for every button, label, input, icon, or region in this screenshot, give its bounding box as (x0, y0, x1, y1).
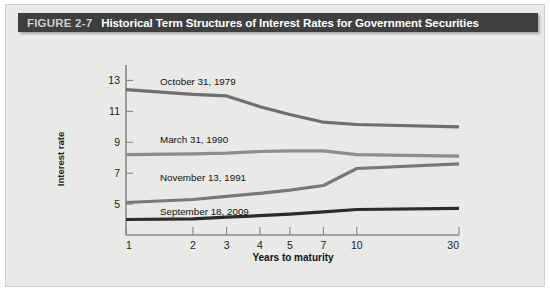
x-tick-label: 3 (224, 239, 230, 251)
x-tick-label: 30 (447, 239, 459, 251)
x-tick-label: 4 (257, 239, 263, 251)
y-tick-label: 5 (114, 198, 120, 210)
y-tick-label: 9 (114, 136, 120, 148)
x-axis: 1234571030 (126, 227, 459, 251)
series-line (126, 164, 459, 203)
x-axis-title: Years to maturity (252, 252, 334, 263)
y-tick-label: 13 (108, 74, 120, 86)
series-lines (126, 90, 459, 220)
series-label: November 13, 1991 (160, 172, 246, 183)
y-tick-label: 11 (109, 105, 120, 117)
series-line (126, 90, 459, 127)
figure-title: Historical Term Structures of Interest R… (92, 17, 479, 29)
figure-card: FIGURE 2-7 Historical Term Structures of… (6, 5, 544, 286)
series-label: September 18, 2009 (160, 206, 249, 217)
series-label: October 31, 1979 (160, 76, 236, 87)
y-tick-label: 7 (114, 167, 120, 179)
figure-number-label: FIGURE 2-7 (18, 17, 92, 29)
x-tick-label: 7 (321, 239, 327, 251)
series-label: March 31, 1990 (160, 134, 229, 145)
y-axis-title: Interest rate (55, 132, 66, 186)
x-tick-label: 1 (126, 239, 132, 251)
x-tick-label: 5 (287, 239, 293, 251)
series-line (126, 151, 459, 156)
y-axis: 1311975 (108, 74, 133, 210)
line-chart-svg: Interest rate 1311975 1234571030 October… (18, 39, 538, 281)
figure-title-bar: FIGURE 2-7 Historical Term Structures of… (18, 13, 538, 32)
chart-plot-area: Interest rate 1311975 1234571030 October… (18, 39, 538, 281)
x-tick-label: 2 (190, 239, 196, 251)
x-tick-label: 10 (351, 239, 363, 251)
